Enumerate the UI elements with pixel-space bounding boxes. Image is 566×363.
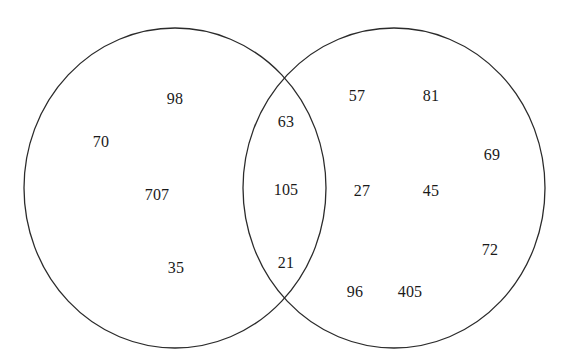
venn-value-left-70: 70	[93, 134, 109, 150]
venn-value-right-57: 57	[349, 88, 365, 104]
venn-value-right-69: 69	[484, 147, 500, 163]
venn-value-left-98: 98	[167, 91, 183, 107]
venn-value-right-27: 27	[354, 183, 370, 199]
venn-value-right-96: 96	[347, 284, 363, 300]
venn-value-mid-63: 63	[278, 114, 294, 130]
venn-value-left-35: 35	[168, 260, 184, 276]
venn-value-mid-105: 105	[274, 182, 299, 198]
venn-value-right-45: 45	[423, 183, 439, 199]
venn-diagram-figure: 987070735631052157816927457296405	[0, 0, 566, 363]
venn-value-mid-21: 21	[278, 255, 294, 271]
venn-value-left-707: 707	[145, 187, 170, 203]
venn-value-right-72: 72	[482, 242, 498, 258]
venn-value-right-81: 81	[423, 88, 439, 104]
venn-value-right-405: 405	[398, 284, 423, 300]
